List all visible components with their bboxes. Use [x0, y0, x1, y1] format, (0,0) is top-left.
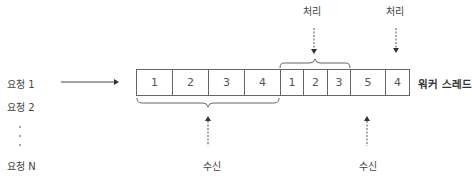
receive-arrow-icon	[364, 116, 370, 146]
receive-arrow-icon	[205, 116, 211, 146]
process-arrow-icon	[393, 28, 399, 53]
diagram-connectors	[0, 0, 472, 181]
process-arrow-icon	[311, 28, 317, 54]
receive-brace-icon	[137, 98, 279, 107]
request-arrow-icon	[61, 79, 119, 85]
process-brace-icon	[280, 59, 350, 68]
